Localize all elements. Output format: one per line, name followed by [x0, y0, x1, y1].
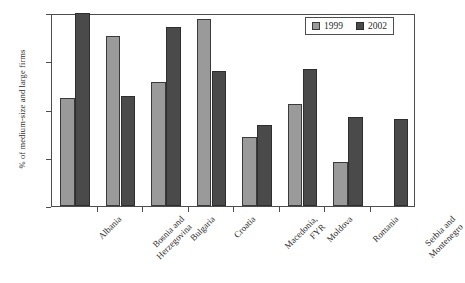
x-tick-label: Bosnia andHerzegovina — [147, 214, 194, 261]
x-tick-mark — [142, 207, 143, 212]
bar — [197, 19, 212, 206]
bar — [333, 162, 348, 206]
x-tick-label: Romania — [370, 214, 400, 244]
x-tick-mark — [370, 207, 371, 212]
y-tick-mark — [46, 111, 51, 112]
bar — [75, 13, 90, 206]
bars-layer — [52, 15, 414, 206]
x-tick-mark — [324, 207, 325, 212]
x-tick-label: Serbia andMontenegro — [419, 214, 465, 260]
bar — [303, 69, 318, 206]
legend-swatch-2002 — [356, 22, 364, 30]
y-axis-title: % of medium-size and large firms — [17, 9, 27, 209]
bar — [288, 104, 303, 206]
x-tick-label: Moldova — [325, 214, 355, 244]
x-tick-label: Albania — [96, 214, 124, 242]
plot-area — [51, 14, 415, 207]
bar — [121, 96, 136, 206]
bar — [257, 125, 272, 206]
y-tick-mark — [46, 159, 51, 160]
legend-entry-2002: 2002 — [356, 21, 387, 31]
bar — [242, 137, 257, 206]
x-tick-mark — [233, 207, 234, 212]
y-tick-mark — [46, 14, 51, 15]
bar — [394, 119, 409, 206]
bar — [212, 71, 227, 206]
bar — [151, 82, 166, 206]
legend: 1999 2002 — [305, 17, 394, 35]
bar — [106, 36, 121, 206]
y-tick-mark — [46, 207, 51, 208]
x-tick-label: Croatia — [232, 214, 258, 240]
legend-label-1999: 1999 — [324, 21, 343, 31]
x-tick-mark — [279, 207, 280, 212]
x-tick-mark — [188, 207, 189, 212]
legend-swatch-1999 — [312, 22, 320, 30]
x-tick-label: Macedonia,FYR — [282, 214, 327, 259]
bar — [166, 27, 181, 206]
bar — [348, 117, 363, 206]
x-tick-mark — [97, 207, 98, 212]
bar — [60, 98, 75, 206]
y-tick-mark — [46, 62, 51, 63]
legend-label-2002: 2002 — [368, 21, 387, 31]
legend-entry-1999: 1999 — [312, 21, 343, 31]
